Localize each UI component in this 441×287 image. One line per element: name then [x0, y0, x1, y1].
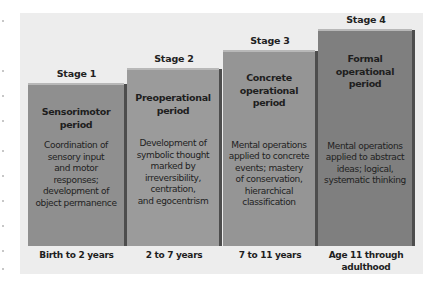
- scan-artifact: [2, 175, 4, 177]
- stage-3-column: Concrete operational period Mental opera…: [223, 50, 315, 246]
- stage-2-description: Development of symbolic thought marked b…: [127, 138, 219, 207]
- stage-4-label: Stage 4: [318, 14, 414, 25]
- scan-artifact: [2, 20, 4, 22]
- scan-artifact: [2, 70, 4, 72]
- stage-1-description: Coordination of sensory input and motor …: [28, 140, 124, 209]
- stage-2-label: Stage 2: [127, 53, 221, 64]
- scan-artifact: [2, 120, 4, 122]
- stage-1-column: Sensorimotor period Coordination of sens…: [28, 83, 124, 246]
- stage-4-description: Mental operations applied to abstract id…: [318, 141, 412, 187]
- stage-2-title: Preoperational period: [127, 92, 219, 117]
- stage-2-age-range: 2 to 7 years: [127, 250, 221, 262]
- stage-1-title: Sensorimotor period: [28, 106, 124, 131]
- stage-1-label: Stage 1: [28, 68, 125, 79]
- stage-3-label: Stage 3: [223, 35, 317, 46]
- stage-4-age-range: Age 11 through adulthood: [318, 250, 414, 273]
- stage-3-description: Mental operations applied to concrete ev…: [223, 140, 315, 209]
- stage-4-column: Formal operational period Mental operati…: [318, 29, 412, 246]
- stage-1-age-range: Birth to 2 years: [28, 250, 125, 262]
- stage-2-column: Preoperational period Development of sym…: [127, 68, 219, 246]
- scan-artifact: [2, 95, 4, 97]
- stage-3-title: Concrete operational period: [223, 72, 315, 110]
- scan-artifact: [2, 225, 4, 227]
- scan-artifact: [2, 200, 4, 202]
- scan-artifact: [2, 250, 4, 252]
- scan-artifact: [2, 268, 4, 270]
- stage-3-age-range: 7 to 11 years: [223, 250, 317, 262]
- scan-artifact: [2, 150, 4, 152]
- stage-4-title: Formal operational period: [318, 53, 412, 91]
